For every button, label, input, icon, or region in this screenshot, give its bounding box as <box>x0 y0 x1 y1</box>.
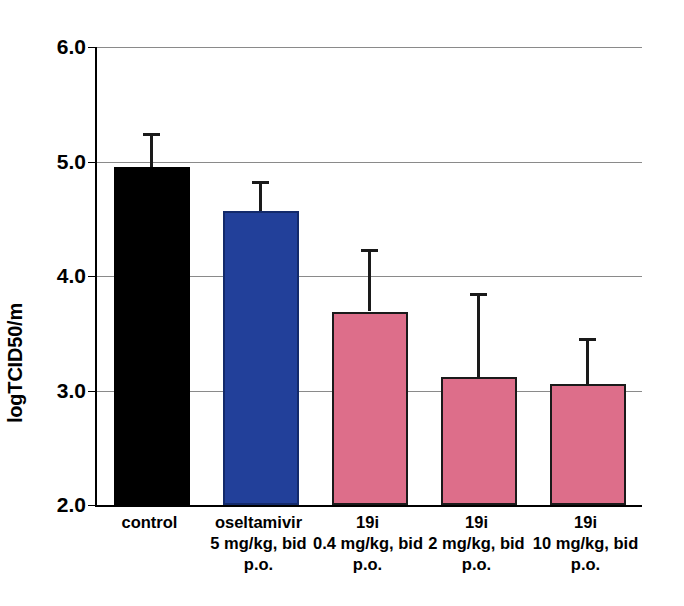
x-tick-label-line-2: 2 mg/kg, bid <box>422 533 531 554</box>
x-tick-label-19i-2: 19i2 mg/kg, bidp.o. <box>422 512 531 575</box>
bar-group-19i-0.4 <box>332 47 408 505</box>
y-axis-tick-labels: 2.03.04.05.06.0 <box>34 0 86 606</box>
x-tick-label-line-3: p.o. <box>531 554 640 575</box>
x-tick-label-line-1: control <box>95 512 204 533</box>
x-tick-label-19i-10: 19i10 mg/kg, bidp.o. <box>531 512 640 575</box>
bar-chart-figure: logTCID50/m 2.03.04.05.06.0 controloselt… <box>0 0 684 606</box>
bar-oseltamivir <box>223 211 299 505</box>
x-tick-label-19i-0.4: 19i0.4 mg/kg, bidp.o. <box>313 512 422 575</box>
y-tick-label-5.0: 5.0 <box>38 150 86 174</box>
bar-group-oseltamivir <box>223 47 299 505</box>
error-bar-line-19i-10 <box>586 338 589 384</box>
y-tick-label-4.0: 4.0 <box>38 264 86 288</box>
x-tick-label-line-2: 5 mg/kg, bid <box>204 533 313 554</box>
error-bar-line-control <box>150 133 153 167</box>
x-tick-label-line-2: 10 mg/kg, bid <box>531 533 640 554</box>
error-bar-line-19i-0.4 <box>368 249 371 312</box>
bar-19i-0.4 <box>332 312 408 506</box>
bar-group-19i-10 <box>550 47 626 505</box>
y-tick-label-3.0: 3.0 <box>38 379 86 403</box>
x-tick-label-line-1: 19i <box>313 512 422 533</box>
x-tick-label-line-2: 0.4 mg/kg, bid <box>313 533 422 554</box>
x-tick-label-oseltamivir: oseltamivir5 mg/kg, bidp.o. <box>204 512 313 575</box>
error-bar-cap-19i-0.4 <box>361 249 378 252</box>
error-bar-cap-control <box>143 133 160 136</box>
x-tick-label-line-1: 19i <box>531 512 640 533</box>
error-bar-cap-19i-10 <box>579 338 596 341</box>
y-axis-label: logTCID50/m <box>0 0 30 606</box>
bar-19i-10 <box>550 384 626 505</box>
error-bar-cap-oseltamivir <box>252 181 269 184</box>
x-tick-label-line-1: 19i <box>422 512 531 533</box>
plot-area <box>95 47 642 507</box>
error-bar-cap-19i-2 <box>470 293 487 296</box>
x-axis-tick-labels: controloseltamivir5 mg/kg, bidp.o.19i0.4… <box>95 512 640 602</box>
x-tick-label-control: control <box>95 512 204 533</box>
x-tick-label-line-3: p.o. <box>422 554 531 575</box>
error-bar-line-oseltamivir <box>259 181 262 211</box>
bar-group-19i-2 <box>441 47 517 505</box>
x-tick-label-line-3: p.o. <box>204 554 313 575</box>
y-tick-mark-2.0 <box>88 505 97 506</box>
y-tick-label-2.0: 2.0 <box>38 493 86 517</box>
bar-control <box>114 167 190 505</box>
y-tick-label-6.0: 6.0 <box>38 35 86 59</box>
bar-group-control <box>114 47 190 505</box>
y-tick-mark-5.0 <box>88 162 97 163</box>
y-tick-mark-3.0 <box>88 391 97 392</box>
y-tick-mark-4.0 <box>88 276 97 277</box>
bars-group <box>97 47 642 505</box>
bar-19i-2 <box>441 377 517 505</box>
x-tick-label-line-1: oseltamivir <box>204 512 313 533</box>
error-bar-line-19i-2 <box>477 293 480 377</box>
x-tick-label-line-3: p.o. <box>313 554 422 575</box>
y-tick-mark-6.0 <box>88 47 97 48</box>
